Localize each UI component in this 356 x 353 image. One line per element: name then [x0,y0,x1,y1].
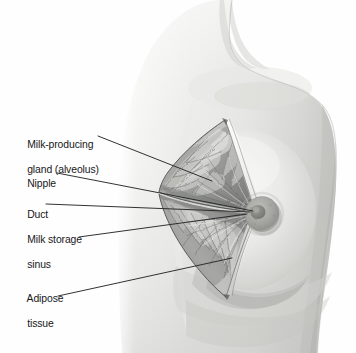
label-milk-storage-sinus-line1: Milk storage [27,234,82,245]
label-nipple-line1: Nipple [27,178,56,189]
label-adipose-tissue-line2: tissue [27,318,54,329]
label-adipose-tissue-line1: Adipose [27,293,64,304]
label-adipose-tissue: Adipose tissue [16,281,63,342]
label-milk-storage-sinus: Milk storage sinus [16,222,82,283]
label-milk-storage-sinus-line2: sinus [27,259,51,270]
label-milk-producing-gland-line1: Milk-producing [27,139,93,150]
breast-anatomy-figure: Milk-producing gland (alveolus) Nipple D… [0,0,356,353]
label-duct-line1: Duct [27,209,48,220]
